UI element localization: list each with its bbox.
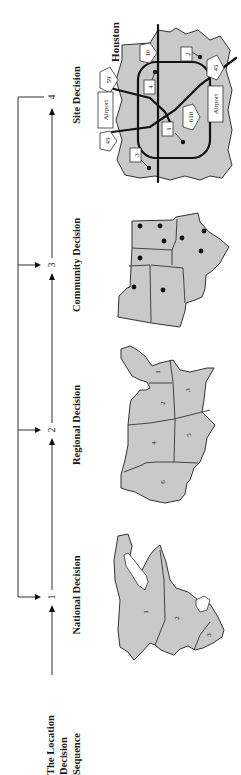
step-number-4: 4 (46, 95, 57, 100)
label-community-decision: Community Decision (71, 218, 82, 312)
label-regional-decision: Regional Decision (71, 385, 82, 465)
step-number-3: 3 (46, 263, 57, 268)
step-number-1: 1 (46, 595, 57, 600)
svg-text:1: 1 (165, 127, 173, 131)
label-site-decision: Site Decision (71, 66, 82, 124)
svg-text:59: 59 (105, 76, 113, 84)
sequence-connector (18, 97, 55, 675)
diagram-title: The Location Decision Sequence (45, 715, 82, 775)
location-decision-diagram: 4 3 2 1 Site Decision Community Decision… (0, 0, 241, 775)
svg-text:Airport: Airport (102, 100, 110, 121)
svg-text:3: 3 (205, 633, 213, 637)
svg-text:Decision: Decision (58, 737, 69, 775)
svg-text:610: 610 (187, 111, 195, 122)
svg-text:10: 10 (144, 49, 152, 57)
regional-map: 1 2 3 4 5 6 (121, 346, 215, 503)
svg-text:The Location: The Location (45, 715, 56, 775)
svg-text:3: 3 (133, 153, 141, 157)
svg-text:3: 3 (184, 388, 192, 392)
svg-text:6: 6 (159, 480, 167, 484)
svg-text:4: 4 (147, 85, 155, 89)
svg-text:Sequence: Sequence (71, 733, 82, 775)
label-national-decision: National Decision (71, 555, 82, 634)
svg-text:2: 2 (173, 616, 181, 620)
community-map (118, 213, 229, 327)
svg-text:45: 45 (212, 64, 220, 72)
svg-text:1: 1 (142, 610, 150, 614)
svg-text:2: 2 (184, 52, 192, 56)
houston-site-map: 1 2 3 4 59 10 45 45 610 Airport Airport … (98, 22, 236, 182)
svg-text:4: 4 (150, 441, 158, 445)
svg-text:Airport: Airport (212, 94, 220, 115)
step-number-2: 2 (46, 428, 57, 433)
svg-text:1: 1 (154, 370, 162, 374)
national-map: 1 2 3 (114, 534, 224, 660)
svg-text:2: 2 (159, 401, 167, 405)
svg-text:5: 5 (185, 433, 193, 437)
city-label-houston: Houston (109, 22, 121, 62)
svg-text:45: 45 (104, 137, 112, 145)
